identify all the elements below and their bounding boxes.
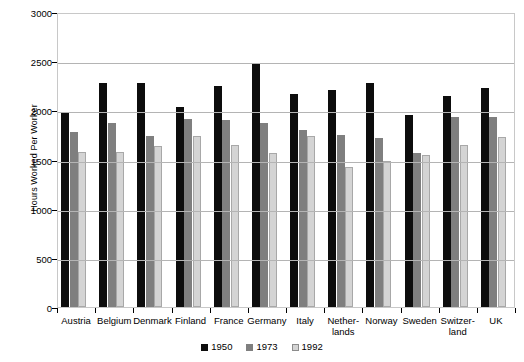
bar-1992 bbox=[269, 153, 277, 307]
bar-1950 bbox=[252, 64, 260, 307]
bars-layer bbox=[58, 14, 514, 307]
bar-1950 bbox=[176, 107, 184, 307]
bar-1992 bbox=[345, 167, 353, 307]
legend-label: 1973 bbox=[256, 341, 277, 352]
bar-1973 bbox=[375, 138, 383, 307]
gridline bbox=[58, 260, 514, 261]
y-axis-tick-label: 1000 bbox=[12, 206, 52, 215]
bar-1950 bbox=[443, 96, 451, 307]
bar-group bbox=[249, 14, 287, 307]
y-axis-tick-mark bbox=[52, 111, 57, 112]
bar-chart: Hours Worked Per Worker 0500100015002000… bbox=[0, 0, 524, 362]
legend-entry: 1950 bbox=[201, 341, 232, 352]
bar-1973 bbox=[222, 120, 230, 307]
bar-1992 bbox=[231, 145, 239, 307]
x-axis-tick-mark bbox=[324, 308, 325, 313]
x-axis-label: UK bbox=[471, 315, 521, 326]
legend-swatch-icon bbox=[201, 344, 208, 351]
bar-1950 bbox=[99, 83, 107, 307]
y-axis-tick-label: 2000 bbox=[12, 107, 52, 116]
bar-1992 bbox=[154, 146, 162, 307]
gridline bbox=[58, 162, 514, 163]
bar-1950 bbox=[481, 88, 489, 307]
y-axis-tick-label: 3000 bbox=[12, 9, 52, 18]
y-axis-tick-label: 0 bbox=[12, 304, 52, 313]
x-axis-tick-mark bbox=[362, 308, 363, 313]
x-axis-tick-mark bbox=[401, 308, 402, 313]
bar-1950 bbox=[366, 83, 374, 307]
bar-1973 bbox=[184, 119, 192, 307]
bar-1973 bbox=[108, 123, 116, 307]
bar-1950 bbox=[137, 83, 145, 307]
legend-entry: 1992 bbox=[292, 341, 323, 352]
gridline bbox=[58, 112, 514, 113]
bar-1950 bbox=[214, 86, 222, 307]
bar-1973 bbox=[299, 130, 307, 307]
bar-1973 bbox=[451, 117, 459, 307]
x-axis-tick-mark bbox=[57, 308, 58, 313]
bar-group bbox=[478, 14, 516, 307]
plot-area bbox=[57, 13, 515, 308]
bar-1950 bbox=[328, 90, 336, 307]
bar-1992 bbox=[422, 155, 430, 308]
bar-1992 bbox=[78, 152, 86, 307]
bar-group bbox=[363, 14, 401, 307]
bar-group bbox=[134, 14, 172, 307]
x-axis-tick-mark bbox=[172, 308, 173, 313]
bar-1973 bbox=[489, 117, 497, 307]
bar-1973 bbox=[260, 123, 268, 307]
y-axis-tick-label: 2500 bbox=[12, 58, 52, 67]
legend-swatch-icon bbox=[292, 344, 299, 351]
y-axis-tick-mark bbox=[52, 259, 57, 260]
x-axis-tick-mark bbox=[95, 308, 96, 313]
bar-group bbox=[96, 14, 134, 307]
x-axis-tick-mark bbox=[439, 308, 440, 313]
bar-group bbox=[325, 14, 363, 307]
legend-swatch-icon bbox=[246, 344, 253, 351]
bar-1973 bbox=[413, 153, 421, 307]
x-axis-tick-mark bbox=[286, 308, 287, 313]
bar-1992 bbox=[116, 152, 124, 307]
y-axis-tick-label: 1500 bbox=[12, 157, 52, 166]
bar-group bbox=[287, 14, 325, 307]
bar-1973 bbox=[70, 132, 78, 307]
y-axis-tick-label: 500 bbox=[12, 255, 52, 264]
x-axis-tick-mark bbox=[515, 308, 516, 313]
legend-label: 1950 bbox=[211, 341, 232, 352]
bar-1992 bbox=[383, 161, 391, 307]
x-axis-tick-mark bbox=[248, 308, 249, 313]
bar-group bbox=[402, 14, 440, 307]
x-axis-tick-mark bbox=[133, 308, 134, 313]
legend-label: 1992 bbox=[302, 341, 323, 352]
y-axis-tick-mark bbox=[52, 62, 57, 63]
x-axis-tick-mark bbox=[210, 308, 211, 313]
bar-1950 bbox=[290, 94, 298, 307]
gridline bbox=[58, 211, 514, 212]
y-axis-tick-mark bbox=[52, 13, 57, 14]
y-axis-tick-mark bbox=[52, 210, 57, 211]
x-axis-tick-mark bbox=[477, 308, 478, 313]
bar-group bbox=[440, 14, 478, 307]
bar-group bbox=[173, 14, 211, 307]
bar-group bbox=[211, 14, 249, 307]
gridline bbox=[58, 63, 514, 64]
chart-legend: 195019731992 bbox=[0, 341, 524, 352]
bar-group bbox=[58, 14, 96, 307]
y-axis-tick-mark bbox=[52, 161, 57, 162]
bar-1992 bbox=[460, 145, 468, 307]
legend-entry: 1973 bbox=[246, 341, 277, 352]
